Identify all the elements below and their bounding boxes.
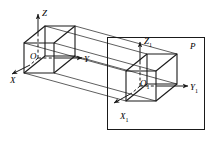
source-cube-edge bbox=[54, 26, 75, 43]
axis-x1-label-sub: 1 bbox=[126, 117, 129, 123]
axes-o bbox=[12, 14, 82, 74]
projection-ray bbox=[24, 73, 126, 101]
figure-canvas: Z Y X O Z1 Y1 X1 O1 P bbox=[0, 0, 215, 145]
axis-y1-label: Y1 bbox=[190, 83, 198, 94]
origin-o-label: O bbox=[30, 52, 37, 61]
axis-x1-label: X1 bbox=[120, 112, 129, 123]
origin-o1-label-sub: 1 bbox=[147, 84, 150, 90]
source-cube-edge bbox=[24, 26, 45, 43]
target-cube-edge bbox=[156, 54, 177, 71]
axis-z1-label: Z1 bbox=[144, 37, 152, 48]
axis-z1-label-sub: 1 bbox=[149, 42, 152, 48]
target-cube bbox=[126, 54, 177, 101]
axis-z-label: Z bbox=[42, 9, 47, 18]
axis-y-label: Y bbox=[84, 55, 89, 64]
axis-y1-label-sub: 1 bbox=[195, 88, 198, 94]
source-cube-edge bbox=[54, 56, 75, 73]
source-cube bbox=[24, 26, 75, 73]
target-cube-edge bbox=[156, 84, 177, 101]
projection-ray bbox=[54, 43, 156, 71]
projection-ray bbox=[45, 26, 147, 54]
projection-ray bbox=[75, 26, 177, 54]
axis-x-label: X bbox=[10, 76, 16, 85]
source-cube-back-face bbox=[45, 26, 75, 56]
origin-o1-label: O1 bbox=[140, 79, 150, 90]
axis-x1-inside bbox=[132, 86, 140, 93]
target-cube-back-face bbox=[147, 54, 177, 84]
target-cube-edge bbox=[126, 54, 147, 71]
plane-p-label: P bbox=[190, 42, 196, 51]
projection-diagram bbox=[0, 0, 215, 145]
